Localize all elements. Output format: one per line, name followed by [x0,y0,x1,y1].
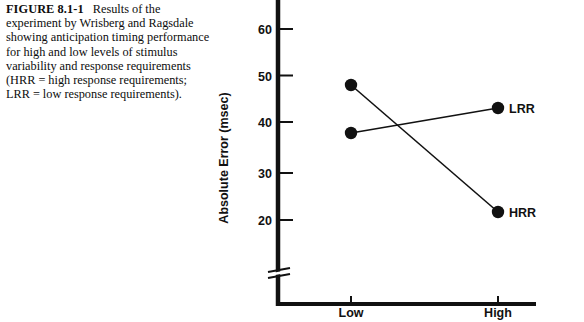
y-tick-label-60: 60 [258,23,272,37]
series-label-lrr: LRR [509,102,535,116]
data-point-hrr-high [492,206,504,218]
series-line-lrr [351,108,498,133]
x-axis-ticks [351,296,498,303]
series-line-hrr [351,85,498,212]
y-tick-label-20: 20 [258,214,272,228]
y-tick-label-40: 40 [258,116,272,130]
x-tick-label-high: High [484,306,512,320]
series-label-hrr: HRR [509,206,536,220]
y-axis-ticks [280,29,293,220]
y-axis-title: Absolute Error (msec) [217,92,231,223]
y-tick-label-30: 30 [258,167,272,181]
y-axis-break-icon [268,268,290,278]
y-tick-label-50: 50 [258,70,272,84]
data-point-lrr-high [492,102,504,114]
data-point-lrr-low [345,127,357,139]
x-tick-label-low: Low [339,306,364,320]
data-point-hrr-low [345,79,357,91]
line-chart: 60 50 40 30 20 Absolute Error (msec) Low… [0,0,584,322]
